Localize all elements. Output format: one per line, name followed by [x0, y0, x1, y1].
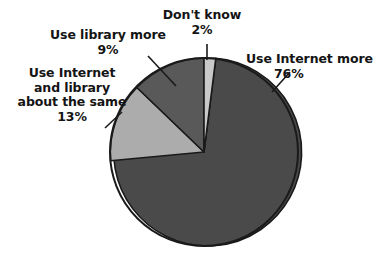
slice-label-about-the-same-line1: Use Internet	[10, 66, 134, 81]
slice-label-use-internet-more-text: Use Internet more	[246, 51, 373, 66]
slice-label-about-the-same: Use Internet and library about the same …	[10, 66, 134, 124]
slice-label-about-the-same-line2: and library	[10, 81, 134, 96]
slice-label-about-the-same-line3: about the same	[10, 95, 134, 110]
slice-label-use-library-more: Use library more 9%	[46, 28, 170, 57]
slice-value-about-the-same: 13%	[10, 110, 134, 125]
slice-label-dont-know-text: Don't know	[163, 7, 241, 22]
slice-label-use-internet-more: Use Internet more 76%	[246, 52, 374, 81]
slice-value-use-library-more: 9%	[46, 43, 170, 58]
pie-chart: Don't know 2% Use library more 9% Use In…	[0, 0, 376, 266]
slice-value-use-internet-more: 76%	[274, 67, 374, 82]
slice-label-use-library-more-text: Use library more	[50, 27, 166, 42]
